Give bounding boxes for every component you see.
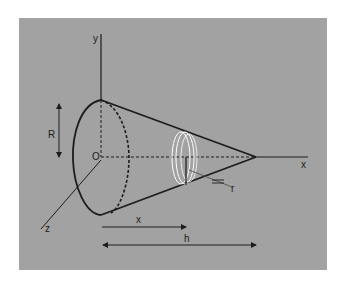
x-axis-label: x	[301, 159, 306, 170]
disk-radius-leader	[189, 170, 232, 187]
cone-base-back	[101, 100, 129, 213]
disk-element	[172, 132, 197, 184]
height-label: h	[184, 233, 190, 244]
z-axis	[41, 160, 101, 229]
y-axis-label: y	[93, 33, 98, 44]
disk-radius-label: r	[231, 183, 235, 194]
origin-label: O	[92, 151, 100, 162]
z-axis-label: z	[45, 223, 50, 234]
cone-diagram: y x z O R x h r	[0, 0, 343, 285]
cone-upper-edge	[101, 100, 256, 157]
radius-label: R	[48, 129, 55, 140]
distance-label: x	[136, 214, 141, 225]
